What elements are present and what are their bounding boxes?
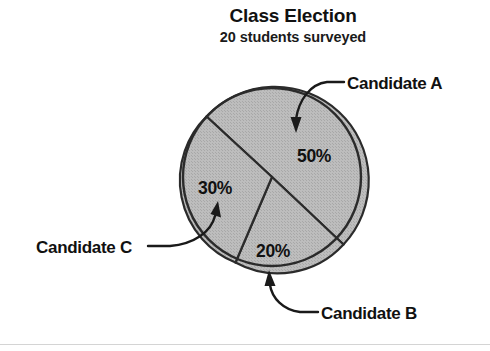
bottom-divider: [0, 344, 490, 345]
slice-value-candidate-c: 30%: [198, 178, 233, 198]
callout-label-candidate-b: Candidate B: [321, 304, 417, 323]
slice-value-candidate-a: 50%: [297, 146, 332, 166]
page-root: Class Election 20 students surveyed 50%: [0, 0, 490, 351]
leader-line-candidate-b: [270, 285, 318, 312]
pie-chart-figure: Class Election 20 students surveyed 50%: [0, 0, 490, 351]
pie-chart-svg: 50% 30% 20% Candidate A Candidate B Cand…: [0, 0, 490, 351]
callout-label-candidate-c: Candidate C: [36, 238, 132, 257]
slice-value-candidate-b: 20%: [256, 241, 291, 261]
callout-label-candidate-a: Candidate A: [347, 74, 442, 93]
